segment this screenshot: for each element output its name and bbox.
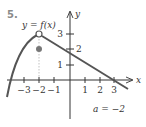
annotation-a-value: a = −2 xyxy=(93,104,125,114)
svg-text:−2: −2 xyxy=(32,85,45,95)
svg-text:1: 1 xyxy=(82,85,88,95)
problem-number: 5. xyxy=(7,9,18,20)
svg-text:−3: −3 xyxy=(17,85,31,95)
graph-figure: −3 −2 −1 1 2 3 3 2 1 y x 5. y = f(x) a =… xyxy=(0,0,146,127)
svg-text:1: 1 xyxy=(57,60,63,70)
svg-text:3: 3 xyxy=(57,29,63,39)
x-axis-label: x xyxy=(136,75,141,85)
filled-point-icon xyxy=(36,46,42,52)
x-tick-labels: −3 −2 −1 1 2 3 xyxy=(17,85,117,95)
function-label: y = f(x) xyxy=(21,20,56,30)
graph-svg: −3 −2 −1 1 2 3 3 2 1 y x 5. y = f(x) a =… xyxy=(0,0,146,127)
svg-text:2: 2 xyxy=(97,85,103,95)
svg-text:3: 3 xyxy=(111,85,117,95)
open-point-icon xyxy=(36,31,42,37)
svg-text:2: 2 xyxy=(76,44,82,54)
svg-text:−1: −1 xyxy=(47,85,60,95)
y-axis-label: y xyxy=(74,9,81,19)
